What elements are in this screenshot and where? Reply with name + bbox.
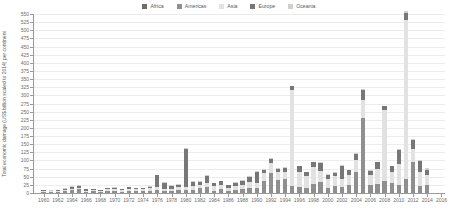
bar-2002[interactable]: [340, 165, 344, 193]
bar-segment-asia: [418, 172, 422, 186]
x-axis-tick-label: 1964: [67, 198, 78, 203]
legend-swatch-icon: [177, 4, 182, 9]
bar-1964[interactable]: [70, 186, 74, 193]
y-axis-tick-label: 175: [21, 134, 29, 139]
bar-2012[interactable]: [411, 139, 415, 193]
bar-2013[interactable]: [418, 160, 422, 193]
bar-1996[interactable]: [297, 166, 301, 193]
x-axis-tick-label: 1976: [152, 198, 163, 203]
y-axis-tick-label: 375: [21, 68, 29, 73]
bar-1990[interactable]: [255, 171, 259, 193]
y-axis-tick-label: 200: [21, 125, 29, 130]
y-axis-tick-label: 50: [23, 174, 29, 179]
bar-1995[interactable]: [290, 86, 294, 193]
y-axis-tick: [30, 14, 33, 15]
bar-1976[interactable]: [155, 175, 159, 193]
x-axis-tick-label: 2012: [407, 198, 418, 203]
x-axis-tick-label: 2004: [351, 198, 362, 203]
bar-1983[interactable]: [205, 175, 209, 193]
bar-2006[interactable]: [368, 170, 372, 193]
bar-segment-asia: [262, 173, 266, 180]
bar-2004[interactable]: [354, 153, 358, 193]
y-axis-tick-label: 100: [21, 158, 29, 163]
bar-1994[interactable]: [283, 167, 287, 193]
bar-segment-asia: [404, 20, 408, 179]
bar-segment-europe: [418, 161, 422, 171]
bar-1965[interactable]: [77, 185, 81, 193]
bar-1986[interactable]: [226, 185, 230, 193]
bar-series-group: [33, 14, 445, 194]
bar-segment-americas: [262, 181, 266, 193]
bar-segment-asia: [425, 175, 429, 184]
bar-segment-asia: [390, 172, 394, 184]
legend-item-africa[interactable]: Africa: [142, 4, 163, 9]
legend-item-oceania[interactable]: Oceania: [288, 4, 315, 9]
bar-1999[interactable]: [318, 162, 322, 193]
bar-segment-europe: [397, 150, 401, 164]
bar-2007[interactable]: [375, 162, 379, 193]
bar-2003[interactable]: [347, 170, 351, 193]
y-axis-tick-label: 400: [21, 60, 29, 65]
y-axis-tick: [30, 95, 33, 96]
bar-1991[interactable]: [262, 169, 266, 193]
x-axis-tick-label: 1994: [280, 198, 291, 203]
y-axis-tick-label: 0: [26, 191, 29, 196]
bar-segment-americas: [375, 184, 379, 193]
bar-1980[interactable]: [184, 148, 188, 193]
bar-segment-asia: [397, 164, 401, 184]
legend-item-asia[interactable]: Asia: [219, 4, 237, 9]
y-axis-line: [33, 14, 34, 194]
bar-segment-americas: [404, 179, 408, 193]
bar-segment-americas: [390, 183, 394, 193]
bar-segment-asia: [304, 176, 308, 188]
bar-1975[interactable]: [148, 186, 152, 193]
bar-segment-americas: [311, 184, 315, 193]
y-axis-tick-label: 525: [21, 20, 29, 25]
legend-item-americas[interactable]: Americas: [177, 4, 207, 9]
y-axis-tick-label: 125: [21, 150, 29, 155]
bar-1984[interactable]: [212, 183, 216, 193]
bar-segment-asia: [354, 160, 358, 172]
bar-1998[interactable]: [311, 162, 315, 193]
y-axis-tick-label: 425: [21, 52, 29, 57]
bar-2001[interactable]: [333, 172, 337, 193]
bar-1988[interactable]: [240, 180, 244, 193]
bar-segment-americas: [347, 185, 351, 193]
bar-segment-asia: [297, 172, 301, 188]
bar-1978[interactable]: [169, 185, 173, 193]
y-axis-tick: [30, 144, 33, 145]
y-axis-tick: [30, 104, 33, 105]
bar-2008[interactable]: [382, 106, 386, 193]
bar-2000[interactable]: [326, 174, 330, 193]
bar-1982[interactable]: [198, 181, 202, 193]
x-axis-line: [33, 193, 445, 194]
legend-item-label: Americas: [185, 4, 207, 9]
legend-swatch-icon: [250, 4, 255, 9]
bar-1997[interactable]: [304, 172, 308, 193]
bar-1977[interactable]: [162, 182, 166, 193]
bar-1979[interactable]: [176, 184, 180, 193]
bar-segment-europe: [155, 175, 159, 186]
bar-1993[interactable]: [276, 168, 280, 193]
bar-1985[interactable]: [219, 181, 223, 193]
bar-segment-europe: [255, 172, 259, 184]
bar-1992[interactable]: [269, 158, 273, 193]
legend-item-europe[interactable]: Europe: [250, 4, 275, 9]
bar-2009[interactable]: [390, 166, 394, 193]
bar-2010[interactable]: [397, 149, 401, 193]
bar-1981[interactable]: [191, 181, 195, 193]
bar-segment-europe: [340, 166, 344, 179]
bar-segment-americas: [269, 173, 273, 193]
x-axis-tick-label: 1966: [81, 198, 92, 203]
bar-2011[interactable]: [404, 11, 408, 193]
bar-2014[interactable]: [425, 168, 429, 193]
x-axis-tick-label: 1982: [194, 198, 205, 203]
bar-segment-americas: [368, 185, 372, 193]
y-axis-tick: [30, 193, 33, 194]
legend-item-label: Africa: [150, 4, 163, 9]
bar-1989[interactable]: [247, 176, 251, 193]
bar-2005[interactable]: [361, 89, 365, 193]
y-axis-tick-label: 325: [21, 85, 29, 90]
bar-1987[interactable]: [233, 182, 237, 193]
y-axis-tick: [30, 38, 33, 39]
